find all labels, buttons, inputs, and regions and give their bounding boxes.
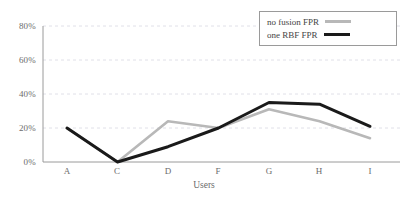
legend-swatch-one-rbf-fpr xyxy=(324,33,350,36)
series-line-one-rbf-fpr xyxy=(67,103,370,163)
x-tick-i: I xyxy=(357,166,383,176)
x-tick-a: A xyxy=(54,166,80,176)
y-tick-40: 40% xyxy=(2,89,36,99)
legend-item-no-fusion-fpr: no fusion FPR xyxy=(267,15,390,28)
legend-swatch-no-fusion-fpr xyxy=(325,20,351,23)
x-tick-f: F xyxy=(205,166,231,176)
legend-item-one-rbf-fpr: one RBF FPR xyxy=(267,28,390,41)
x-tick-g: G xyxy=(256,166,282,176)
x-tick-h: H xyxy=(306,166,332,176)
x-axis-title: Users xyxy=(0,180,408,190)
line-chart: 80% 60% 40% 20% 0% A C D F G H I Users n… xyxy=(0,0,408,200)
y-tick-80: 80% xyxy=(2,21,36,31)
x-tick-c: C xyxy=(104,166,130,176)
y-tick-20: 20% xyxy=(2,123,36,133)
y-tick-0: 0% xyxy=(2,157,36,167)
series-line-no-fusion-fpr xyxy=(67,109,370,162)
y-tick-60: 60% xyxy=(2,55,36,65)
legend-label-no-fusion-fpr: no fusion FPR xyxy=(267,17,319,27)
legend-label-one-rbf-fpr: one RBF FPR xyxy=(267,30,318,40)
legend: no fusion FPR one RBF FPR xyxy=(259,11,397,46)
x-tick-d: D xyxy=(155,166,181,176)
